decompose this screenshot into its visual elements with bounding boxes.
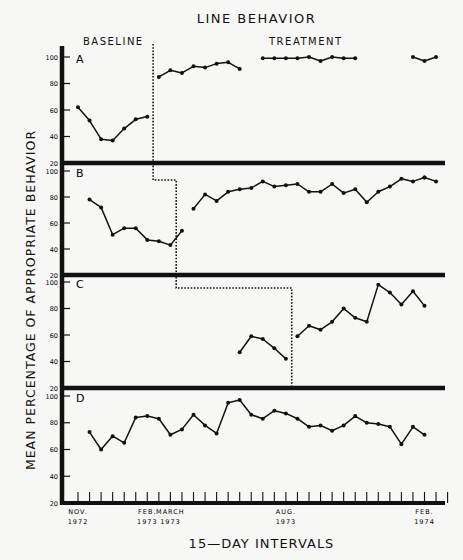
data-point — [284, 411, 288, 415]
data-point — [411, 55, 415, 59]
data-point — [399, 303, 403, 307]
x-tick-label: 1974 — [414, 518, 435, 526]
data-point — [411, 289, 415, 293]
data-point — [272, 409, 276, 413]
data-point — [180, 427, 184, 431]
data-point — [353, 56, 357, 60]
data-point — [342, 56, 346, 60]
data-point — [134, 415, 138, 419]
data-point — [307, 190, 311, 194]
data-point — [272, 346, 276, 350]
x-tick-label: 1973 — [276, 518, 297, 526]
data-point — [76, 105, 80, 109]
data-point — [238, 187, 242, 191]
data-point — [261, 56, 265, 60]
data-point — [99, 137, 103, 141]
data-point — [399, 442, 403, 446]
data-line — [90, 400, 425, 450]
data-point — [365, 320, 369, 324]
data-point — [295, 56, 299, 60]
data-point — [330, 182, 334, 186]
data-point — [134, 226, 138, 230]
y-tick-label: 80 — [50, 419, 58, 427]
data-point — [261, 337, 265, 341]
data-point — [157, 239, 161, 243]
data-point — [134, 117, 138, 121]
data-point — [330, 429, 334, 433]
data-point — [388, 185, 392, 189]
data-point — [376, 283, 380, 287]
panel-label-c: C — [76, 278, 84, 291]
data-point — [215, 431, 219, 435]
data-point — [261, 179, 265, 183]
data-point — [215, 62, 219, 66]
y-tick-label: 60 — [50, 446, 58, 454]
data-point — [307, 324, 311, 328]
data-point — [295, 417, 299, 421]
data-point — [88, 198, 92, 202]
data-point — [365, 421, 369, 425]
y-tick-label: 100 — [46, 279, 58, 287]
y-tick-label: 80 — [50, 194, 58, 202]
data-line — [78, 107, 147, 140]
data-point — [215, 199, 219, 203]
data-point — [122, 127, 126, 131]
y-tick-label: 80 — [50, 80, 58, 88]
data-point — [307, 55, 311, 59]
data-point — [111, 138, 115, 142]
data-point — [111, 233, 115, 237]
data-point — [192, 64, 196, 68]
data-point — [399, 177, 403, 181]
data-point — [168, 68, 172, 72]
data-point — [111, 434, 115, 438]
panel-label-d: D — [76, 392, 84, 405]
data-point — [319, 190, 323, 194]
x-tick-label: 1973 — [137, 518, 158, 526]
data-point — [365, 200, 369, 204]
data-point — [295, 182, 299, 186]
data-point — [423, 59, 427, 63]
data-point — [180, 71, 184, 75]
data-point — [284, 357, 288, 361]
data-point — [157, 417, 161, 421]
panel-label-b: B — [76, 167, 84, 180]
data-point — [307, 425, 311, 429]
x-tick-label: 1973 — [160, 518, 181, 526]
data-point — [411, 179, 415, 183]
data-point — [434, 55, 438, 59]
y-tick-label: 60 — [50, 107, 58, 115]
data-point — [168, 433, 172, 437]
data-point — [226, 401, 230, 405]
data-point — [376, 190, 380, 194]
x-tick-label: FEB. — [138, 508, 156, 516]
data-point — [434, 179, 438, 183]
data-point — [249, 334, 253, 338]
y-tick-label: 20 — [50, 500, 58, 508]
y-tick-label: 40 — [50, 473, 58, 481]
y-tick-label: 20 — [50, 385, 58, 393]
y-tick-label: 60 — [50, 332, 58, 340]
y-tick-label: 40 — [50, 358, 58, 366]
data-point — [145, 115, 149, 119]
data-point — [423, 176, 427, 180]
y-tick-label: 60 — [50, 220, 58, 228]
x-tick-label: 1972 — [68, 518, 89, 526]
data-point — [180, 229, 184, 233]
data-point — [319, 328, 323, 332]
data-point — [249, 413, 253, 417]
data-point — [238, 67, 242, 71]
y-tick-label: 20 — [50, 160, 58, 168]
data-point — [238, 350, 242, 354]
data-point — [376, 422, 380, 426]
data-point — [353, 316, 357, 320]
data-point — [272, 185, 276, 189]
data-line — [90, 200, 182, 246]
data-point — [192, 413, 196, 417]
data-point — [226, 60, 230, 64]
y-tick-label: 40 — [50, 246, 58, 254]
x-tick-label: FEB. — [415, 508, 433, 516]
panel-label-a: A — [76, 53, 84, 66]
data-point — [249, 186, 253, 190]
data-point — [342, 423, 346, 427]
data-point — [342, 191, 346, 195]
